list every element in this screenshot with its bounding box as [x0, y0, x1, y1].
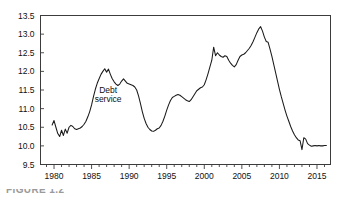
figure-caption-text: FIGURE 1.2: [6, 189, 126, 195]
x-tick-label: 2015: [308, 171, 327, 181]
y-axis-tick-labels: 9.510.010.511.011.512.012.513.013.5: [18, 11, 35, 170]
debt-service-line-chart: 9.510.010.511.011.512.012.513.013.5 1980…: [0, 0, 341, 199]
y-tick-label: 11.0: [19, 104, 35, 114]
y-tick-label: 12.5: [18, 48, 35, 58]
x-tick-label: 2010: [270, 171, 289, 181]
y-tick-label: 9.5: [23, 160, 35, 170]
y-tick-label: 12.0: [18, 66, 35, 76]
y-axis-tick-marks: [41, 16, 45, 165]
y-tick-label: 10.0: [18, 141, 35, 151]
x-tick-label: 1995: [157, 171, 176, 181]
figure-caption-strip: FIGURE 1.2: [6, 189, 126, 199]
series-annotation-line-2: service: [95, 94, 122, 104]
series-line-debt-service: [52, 27, 326, 150]
x-axis-tick-labels: 19801985199019952000200520102015: [45, 171, 327, 181]
y-tick-label: 11.5: [19, 85, 35, 95]
x-tick-label: 2000: [195, 171, 214, 181]
y-tick-label: 10.5: [18, 122, 35, 132]
x-tick-label: 1985: [82, 171, 101, 181]
plot-frame: [41, 16, 331, 165]
series-annotation-line-1: Debt: [99, 85, 118, 95]
x-tick-label: 2005: [232, 171, 251, 181]
x-tick-label: 1980: [45, 171, 64, 181]
x-axis-major-tick-marks: [54, 165, 317, 170]
y-tick-label: 13.5: [18, 11, 35, 21]
y-tick-label: 13.0: [18, 29, 35, 39]
figure-container: 9.510.010.511.011.512.012.513.013.5 1980…: [0, 0, 341, 199]
x-tick-label: 1990: [120, 171, 139, 181]
